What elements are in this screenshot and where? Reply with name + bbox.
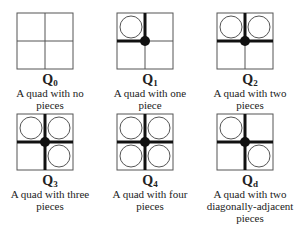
quad-grid-icon bbox=[200, 101, 300, 181]
quad-label-letter: Q bbox=[42, 173, 53, 188]
quad-caption: A quad with fourpieces bbox=[95, 188, 205, 212]
piece-icon bbox=[148, 145, 170, 167]
quad-label-letter: Q bbox=[42, 72, 53, 87]
piece-icon bbox=[248, 145, 270, 167]
center-dot-icon bbox=[140, 36, 150, 46]
quad-grid-icon bbox=[0, 101, 100, 181]
quad-label-letter: Q bbox=[242, 72, 253, 87]
quad-grid-icon bbox=[200, 0, 300, 80]
piece-icon bbox=[120, 16, 142, 38]
quad-label-letter: Q bbox=[242, 173, 253, 188]
quad-q4: Q4A quad with fourpieces bbox=[100, 101, 200, 202]
quad-grid-icon bbox=[0, 0, 100, 80]
quad-q2: Q2A quad with twopieces bbox=[200, 0, 300, 101]
quad-grid-icon bbox=[100, 0, 200, 80]
piece-icon bbox=[148, 117, 170, 139]
piece-icon bbox=[48, 145, 70, 167]
piece-icon bbox=[220, 16, 242, 38]
piece-icon bbox=[120, 117, 142, 139]
quad-q0: Q0A quad with nopieces bbox=[0, 0, 100, 101]
quad-label-letter: Q bbox=[142, 173, 153, 188]
piece-icon bbox=[20, 117, 42, 139]
quad-q1: Q1A quad with onepiece bbox=[100, 0, 200, 101]
center-dot-icon bbox=[40, 137, 50, 147]
piece-icon bbox=[48, 117, 70, 139]
quad-q3: Q3A quad with threepieces bbox=[0, 101, 100, 202]
center-dot-icon bbox=[140, 137, 150, 147]
center-dot-icon bbox=[240, 36, 250, 46]
quad-qd: QdA quad with twodiagonally-adjacentpiec… bbox=[200, 101, 300, 202]
quad-caption: A quad with twodiagonally-adjacentpieces bbox=[195, 188, 305, 224]
quad-caption: A quad with threepieces bbox=[0, 188, 105, 212]
center-dot-icon bbox=[240, 137, 250, 147]
piece-icon bbox=[220, 117, 242, 139]
piece-icon bbox=[248, 16, 270, 38]
quad-grid-icon bbox=[100, 101, 200, 181]
quad-label-letter: Q bbox=[142, 72, 153, 87]
piece-icon bbox=[120, 145, 142, 167]
